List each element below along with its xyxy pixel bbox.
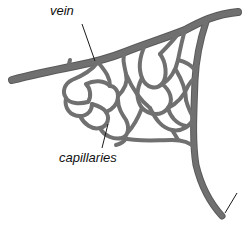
vein-stub — [68, 60, 70, 68]
vein-end-leader-line — [225, 193, 237, 213]
capillary — [178, 60, 195, 70]
capillary — [128, 108, 142, 132]
capillary — [122, 138, 195, 148]
capillary — [86, 81, 110, 102]
capillaries-label: capillaries — [59, 150, 117, 165]
capillary — [92, 86, 118, 112]
vein-descending-branch — [194, 22, 222, 216]
capillary — [168, 108, 186, 126]
vessel-diagram — [0, 0, 250, 225]
vein-label: vein — [50, 3, 74, 18]
vein-leader-line — [82, 24, 95, 61]
